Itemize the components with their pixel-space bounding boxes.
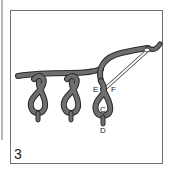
chain-loop-2 — [64, 76, 79, 122]
chain-loop-1 — [31, 76, 46, 122]
point-label-f: F — [111, 85, 116, 94]
point-label-c: C — [100, 105, 106, 114]
point-label-d: D — [100, 126, 106, 135]
stitch-diagram: E F C D — [1, 1, 174, 174]
step-number: 3 — [14, 147, 22, 161]
point-label-e: E — [93, 85, 98, 94]
diagram-panel: E F C D 3 — [10, 10, 163, 164]
